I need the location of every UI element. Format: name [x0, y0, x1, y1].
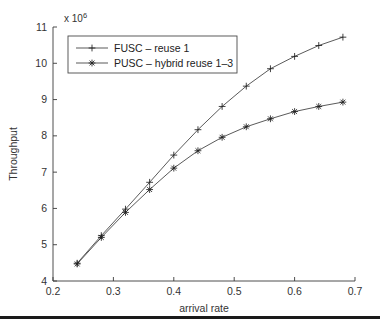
data-point-marker-star — [243, 123, 250, 130]
x-tick-label: 0.3 — [106, 285, 121, 297]
data-point-marker-plus — [315, 42, 322, 49]
x-tick-label: 0.6 — [287, 285, 302, 297]
y-tick-label: 11 — [36, 21, 47, 33]
y-tick-label: 8 — [41, 129, 47, 141]
data-point-marker-star — [146, 186, 153, 193]
y-tick-label: 7 — [41, 166, 47, 178]
legend-label: PUSC – hybrid reuse 1–3 — [114, 57, 233, 69]
data-point-marker-plus — [340, 34, 347, 41]
legend: FUSC – reuse 1PUSC – hybrid reuse 1–3 — [68, 36, 237, 73]
data-point-marker-star — [219, 134, 226, 141]
data-series — [74, 99, 347, 268]
data-point-marker-plus — [267, 65, 274, 72]
data-point-marker-star — [315, 103, 322, 110]
x-tick-label: 0.5 — [227, 285, 242, 297]
x-tick-label: 0.2 — [46, 285, 61, 297]
data-point-marker-star — [291, 108, 298, 115]
x-tick-label: 0.4 — [166, 285, 181, 297]
x-axis-ticks — [53, 277, 355, 281]
y-axis-ticks — [53, 27, 57, 281]
data-point-marker-star — [89, 60, 96, 67]
throughput-vs-arrival-rate-chart: 4567891011 0.20.30.40.50.60.7 x 106 arri… — [0, 0, 380, 326]
data-point-marker-star — [98, 234, 105, 241]
data-point-marker-star — [74, 261, 81, 268]
y-tick-label: 9 — [41, 93, 47, 105]
data-point-marker-star — [195, 147, 202, 154]
x-axis-label: arrival rate — [179, 302, 229, 314]
y-tick-label: 6 — [41, 202, 47, 214]
series-polyline — [77, 102, 343, 264]
data-point-marker-star — [267, 115, 274, 122]
x-tick-label: 0.7 — [348, 285, 363, 297]
data-point-marker-star — [340, 99, 347, 106]
bottom-divider-rule — [0, 316, 380, 319]
data-point-marker-plus — [291, 53, 298, 60]
y-tick-label: 10 — [35, 57, 47, 69]
data-point-marker-star — [170, 165, 177, 172]
figure-container: 4567891011 0.20.30.40.50.60.7 x 106 arri… — [0, 0, 380, 326]
y-tick-label: 5 — [41, 238, 47, 250]
data-point-marker-star — [122, 209, 129, 216]
x-axis-tick-labels: 0.20.30.40.50.60.7 — [46, 285, 363, 297]
y-axis-exponent-label: x 106 — [64, 11, 87, 25]
y-axis-label: Throughput — [7, 127, 19, 181]
legend-label: FUSC – reuse 1 — [114, 42, 189, 54]
y-axis-tick-labels: 4567891011 — [35, 21, 47, 287]
